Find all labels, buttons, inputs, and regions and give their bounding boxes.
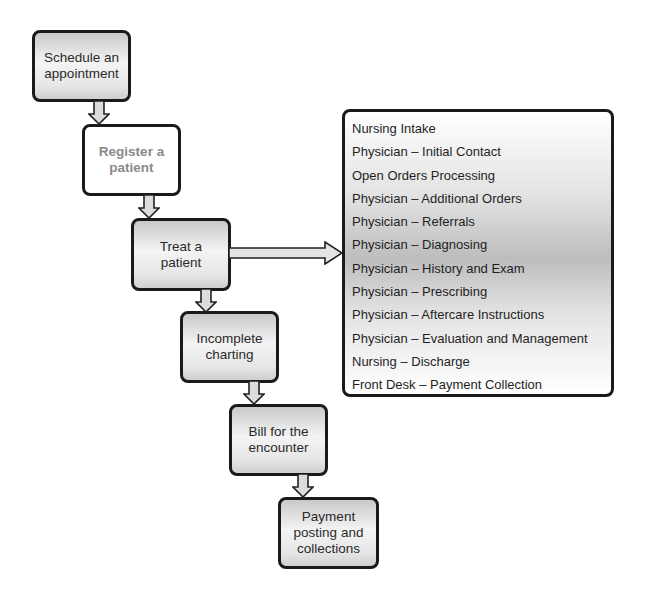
list-item: Front Desk – Payment Collection [352, 373, 611, 396]
step-payment-posting: Payment posting and collections [278, 497, 379, 569]
list-item: Physician – Initial Contact [352, 140, 611, 163]
list-item: Physician – Referrals [352, 210, 611, 233]
arrow-down-icon [243, 381, 265, 405]
step-treat-patient: Treat a patient [131, 218, 231, 291]
step-schedule-appointment: Schedule an appointment [32, 30, 131, 102]
step-register-patient: Register a patient [82, 124, 181, 196]
list-item: Nursing Intake [352, 117, 611, 140]
list-item: Physician – Prescribing [352, 280, 611, 303]
step-label: Treat a patient [138, 239, 224, 271]
list-item: Open Orders Processing [352, 164, 611, 187]
list-item: Nursing – Discharge [352, 350, 611, 373]
step-label: Incomplete charting [192, 331, 267, 363]
step-bill-encounter: Bill for the encounter [229, 404, 328, 476]
list-item: Physician – Evaluation and Management [352, 327, 611, 350]
step-label: Bill for the encounter [244, 424, 314, 456]
list-item: Physician – Aftercare Instructions [352, 303, 611, 326]
arrow-down-icon [88, 101, 110, 125]
arrow-down-icon [195, 289, 217, 313]
arrow-down-icon [292, 474, 314, 498]
list-item: Physician – Diagnosing [352, 233, 611, 256]
arrow-right-icon [229, 241, 343, 265]
step-label: Register a patient [97, 144, 167, 176]
list-item: Physician – Additional Orders [352, 187, 611, 210]
step-label: Schedule an appointment [39, 50, 124, 82]
arrow-down-icon [138, 195, 160, 219]
list-item: Physician – History and Exam [352, 257, 611, 280]
step-label: Payment posting and collections [288, 509, 370, 557]
treat-details-list: Nursing Intake Physician – Initial Conta… [342, 109, 614, 397]
step-incomplete-charting: Incomplete charting [180, 311, 279, 383]
